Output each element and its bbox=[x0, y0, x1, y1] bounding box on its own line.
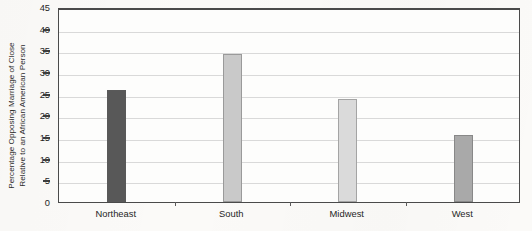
y-tick-mark bbox=[43, 50, 50, 52]
plot-area bbox=[58, 8, 520, 203]
x-tick-mark bbox=[406, 202, 407, 206]
bar-west bbox=[454, 135, 473, 202]
gridline bbox=[59, 183, 519, 184]
y-tick-label: 0 bbox=[28, 198, 50, 208]
y-tick-label: 45 bbox=[28, 3, 50, 13]
bar-midwest bbox=[338, 99, 357, 202]
bar-northeast bbox=[107, 90, 126, 202]
gridline bbox=[59, 162, 519, 163]
y-tick-mark bbox=[43, 72, 50, 74]
y-tick-mark bbox=[43, 94, 50, 96]
x-axis-labels: NortheastSouthMidwestWest bbox=[58, 208, 520, 224]
y-tick-mark bbox=[43, 180, 50, 182]
bar-south bbox=[223, 54, 242, 202]
gridline bbox=[59, 53, 519, 54]
x-tick-mark bbox=[290, 202, 291, 206]
y-tick-mark bbox=[43, 137, 50, 139]
x-tick-mark bbox=[175, 202, 176, 206]
x-label-northeast: Northeast bbox=[95, 208, 136, 219]
x-label-midwest: Midwest bbox=[330, 208, 364, 219]
y-tick-mark bbox=[43, 115, 50, 117]
y-tick-mark bbox=[43, 159, 50, 161]
gridline bbox=[59, 97, 519, 98]
bar-chart-figure: Percentage Opposing Marriage of Close Re… bbox=[0, 0, 532, 231]
gridline bbox=[59, 140, 519, 141]
gridline bbox=[59, 75, 519, 76]
x-label-west: West bbox=[452, 208, 473, 219]
x-label-south: South bbox=[219, 208, 244, 219]
y-tick-mark bbox=[43, 29, 50, 31]
gridline bbox=[59, 118, 519, 119]
gridline bbox=[59, 32, 519, 33]
y-axis-ticks: 051015202530354045 bbox=[0, 8, 50, 203]
